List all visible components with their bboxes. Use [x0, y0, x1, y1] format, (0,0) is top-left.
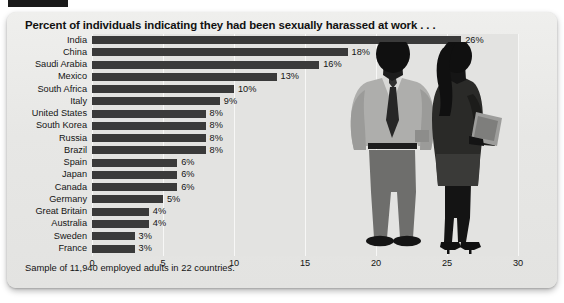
bar-row: Mexico13% [92, 71, 518, 83]
bar-row: Sweden3% [92, 230, 518, 242]
bar-row: United States8% [92, 108, 518, 120]
category-label: Italy [70, 95, 87, 107]
bar-value-label: 6% [181, 156, 194, 168]
bar-value-label: 4% [153, 217, 166, 229]
bar-value-label: 8% [210, 144, 223, 156]
bar [92, 146, 206, 154]
bar-row: Canada6% [92, 181, 518, 193]
category-label: United States [32, 107, 87, 119]
bar-row: Australia4% [92, 218, 518, 230]
bar-row: Italy9% [92, 95, 518, 107]
category-label: Germany [49, 193, 87, 205]
footnote: Sample of 11,940 employed adults in 22 c… [25, 262, 235, 273]
bar-value-label: 5% [167, 193, 180, 205]
bar [92, 36, 461, 44]
category-label: India [67, 34, 87, 46]
category-label: South Africa [37, 83, 87, 95]
category-label: China [63, 46, 87, 58]
bar-row: Spain6% [92, 157, 518, 169]
bar [92, 73, 277, 81]
x-axis-tick: 30 [513, 258, 523, 268]
bar [92, 61, 319, 69]
plot-area: India26%China18%Saudi Arabia16%Mexico13%… [92, 34, 518, 256]
category-label: Sweden [54, 230, 87, 242]
x-axis-tick: 20 [371, 258, 381, 268]
bar-row: Germany5% [92, 193, 518, 205]
bar-row: South Korea8% [92, 120, 518, 132]
category-label: Russia [59, 132, 87, 144]
bar [92, 159, 177, 167]
bar [92, 195, 163, 203]
bar-value-label: 3% [139, 230, 152, 242]
bar [92, 134, 206, 142]
bar-row: South Africa10% [92, 83, 518, 95]
bar [92, 220, 149, 228]
bar-value-label: 26% [465, 34, 483, 46]
top-crop-marker [8, 0, 68, 7]
page-title: Percent of individuals indicating they h… [25, 19, 436, 31]
category-label: Great Britain [35, 205, 87, 217]
bar [92, 183, 177, 191]
bar-value-label: 8% [210, 119, 223, 131]
bar-row: Saudi Arabia16% [92, 59, 518, 71]
bar [92, 48, 348, 56]
bar-row: China18% [92, 46, 518, 58]
bar-value-label: 6% [181, 168, 194, 180]
bar-row: France3% [92, 243, 518, 255]
category-label: Spain [64, 156, 88, 168]
bar-value-label: 6% [181, 181, 194, 193]
bar [92, 97, 220, 105]
bar [92, 208, 149, 216]
bar-value-label: 3% [139, 242, 152, 254]
bar-value-label: 9% [224, 95, 237, 107]
category-label: Saudi Arabia [35, 58, 87, 70]
category-label: Brazil [64, 144, 87, 156]
category-label: Mexico [58, 70, 87, 82]
bar-row: Great Britain4% [92, 206, 518, 218]
category-label: France [58, 242, 87, 254]
bar [92, 245, 135, 253]
category-label: Australia [51, 217, 87, 229]
bar-rows: India26%China18%Saudi Arabia16%Mexico13%… [92, 34, 518, 255]
bar-row: Brazil8% [92, 144, 518, 156]
bar-value-label: 4% [153, 205, 166, 217]
chart-panel: Percent of individuals indicating they h… [7, 12, 557, 288]
bar-value-label: 8% [210, 132, 223, 144]
category-label: Canada [55, 181, 87, 193]
x-axis-tick: 25 [442, 258, 452, 268]
bar-value-label: 18% [352, 46, 370, 58]
category-label: South Korea [36, 119, 87, 131]
x-axis-tick: 15 [300, 258, 310, 268]
bar-row: Russia8% [92, 132, 518, 144]
gridline [518, 34, 519, 256]
bar-value-label: 8% [210, 107, 223, 119]
bar [92, 85, 234, 93]
category-label: Japan [62, 168, 87, 180]
bar-value-label: 13% [281, 70, 299, 82]
bar-value-label: 10% [238, 83, 256, 95]
bar [92, 232, 135, 240]
bar [92, 110, 206, 118]
bar [92, 122, 206, 130]
bar-value-label: 16% [323, 58, 341, 70]
bar-row: Japan6% [92, 169, 518, 181]
bar [92, 171, 177, 179]
bar-row: India26% [92, 34, 518, 46]
